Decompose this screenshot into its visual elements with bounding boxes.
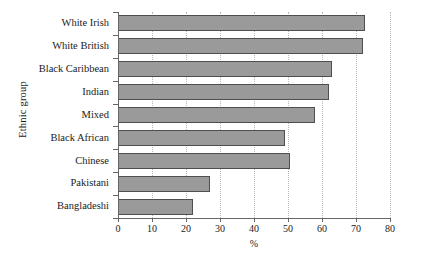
y-tickmark — [113, 81, 118, 82]
bar-row — [118, 12, 390, 35]
gridline — [390, 12, 391, 218]
y-axis-line — [118, 12, 119, 218]
bar-bangladeshi — [118, 199, 193, 215]
bar-row — [118, 126, 390, 149]
y-tick-label: Chinese — [18, 149, 114, 172]
y-tick-label: Black Caribbean — [18, 58, 114, 81]
x-tick-label: 80 — [370, 223, 410, 234]
x-tickmark — [118, 218, 119, 222]
x-axis-title: % — [118, 238, 390, 249]
x-tickmark — [220, 218, 221, 222]
plot-area — [118, 12, 390, 218]
bar-pakistani — [118, 176, 210, 192]
y-tick-label: Mixed — [18, 104, 114, 127]
y-tickmark — [113, 58, 118, 59]
x-tickmark — [152, 218, 153, 222]
y-tickmark — [113, 12, 118, 13]
y-tick-label: Indian — [18, 81, 114, 104]
y-tickmark — [113, 35, 118, 36]
y-tickmark — [113, 104, 118, 105]
bar-chinese — [118, 153, 290, 169]
bars-layer — [118, 12, 390, 218]
y-tickmark — [113, 149, 118, 150]
y-tickmark — [113, 195, 118, 196]
y-tick-label: Black African — [18, 126, 114, 149]
y-tickmark — [113, 126, 118, 127]
bar-indian — [118, 84, 329, 100]
y-tick-label: White British — [18, 35, 114, 58]
x-tickmark — [186, 218, 187, 222]
y-tick-label: Bangladeshi — [18, 195, 114, 218]
bar-row — [118, 195, 390, 218]
y-tick-label: White Irish — [18, 12, 114, 35]
bar-row — [118, 172, 390, 195]
y-tick-label: Pakistani — [18, 172, 114, 195]
bar-mixed — [118, 107, 315, 123]
bar-white-british — [118, 38, 363, 54]
bar-black-caribbean — [118, 61, 332, 77]
x-tickmark — [288, 218, 289, 222]
y-tickmark — [113, 172, 118, 173]
x-tickmark — [254, 218, 255, 222]
bar-row — [118, 149, 390, 172]
bar-chart: Ethnic group White Irish White British B… — [0, 0, 445, 261]
y-axis-tick-labels: White Irish White British Black Caribbea… — [18, 12, 114, 218]
bar-row — [118, 81, 390, 104]
x-tickmark — [390, 218, 391, 222]
x-tickmark — [356, 218, 357, 222]
bar-row — [118, 58, 390, 81]
bar-white-irish — [118, 15, 365, 31]
bar-row — [118, 35, 390, 58]
x-tickmark — [322, 218, 323, 222]
bar-black-african — [118, 130, 285, 146]
bar-row — [118, 104, 390, 127]
